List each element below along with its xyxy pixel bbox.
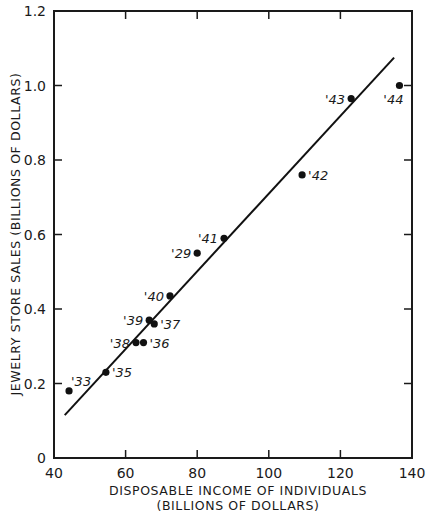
y-tick-label: 0 bbox=[37, 450, 46, 466]
data-point-label: '43 bbox=[325, 92, 345, 107]
data-point-label: '37 bbox=[160, 317, 181, 332]
x-tick-label: 140 bbox=[399, 465, 426, 481]
plot-frame bbox=[54, 11, 412, 458]
data-point bbox=[102, 369, 109, 376]
data-point-label: '42 bbox=[308, 168, 328, 183]
x-axis-subtitle: (BILLIONS OF DOLLARS) bbox=[156, 498, 319, 513]
data-point bbox=[151, 320, 158, 327]
data-point-label: '41 bbox=[198, 231, 218, 246]
data-point bbox=[140, 339, 147, 346]
y-tick-label: 0.2 bbox=[24, 376, 46, 392]
data-point bbox=[220, 235, 227, 242]
data-point-label: '39 bbox=[123, 313, 143, 328]
data-point-label: '33 bbox=[71, 374, 91, 389]
data-point-label: '29 bbox=[171, 246, 191, 261]
data-point bbox=[132, 339, 139, 346]
x-tick-label: 100 bbox=[255, 465, 282, 481]
data-points: '33'35'38'36'39'37'40'29'41'42'43'44 bbox=[65, 82, 403, 395]
regression-line bbox=[65, 58, 394, 416]
y-tick-label: 1.0 bbox=[24, 78, 46, 94]
data-point-label: '44 bbox=[383, 92, 403, 107]
y-tick-label: 0.4 bbox=[24, 301, 46, 317]
x-axis-title: DISPOSABLE INCOME OF INDIVIDUALS bbox=[109, 483, 367, 498]
y-axis-title: JEWELRY STORE SALES (BILLIONS OF DOLLARS… bbox=[8, 73, 23, 397]
data-point-label: '40 bbox=[144, 289, 164, 304]
x-tick-label: 40 bbox=[45, 465, 63, 481]
data-point-label: '38 bbox=[110, 336, 130, 351]
x-axis: 406080100120140 bbox=[45, 11, 425, 481]
y-tick-label: 0.8 bbox=[24, 152, 46, 168]
data-point bbox=[396, 82, 403, 89]
data-point bbox=[166, 292, 173, 299]
data-point bbox=[194, 250, 201, 257]
x-tick-label: 80 bbox=[188, 465, 206, 481]
y-tick-label: 0.6 bbox=[24, 227, 46, 243]
x-tick-label: 60 bbox=[117, 465, 135, 481]
y-tick-label: 1.2 bbox=[24, 3, 46, 19]
scatter-chart: 406080100120140 00.20.40.60.81.01.2 '33'… bbox=[0, 0, 432, 514]
x-tick-label: 120 bbox=[327, 465, 354, 481]
data-point bbox=[298, 171, 305, 178]
data-point bbox=[348, 95, 355, 102]
data-point-label: '35 bbox=[112, 365, 132, 380]
data-point-label: '36 bbox=[150, 336, 170, 351]
